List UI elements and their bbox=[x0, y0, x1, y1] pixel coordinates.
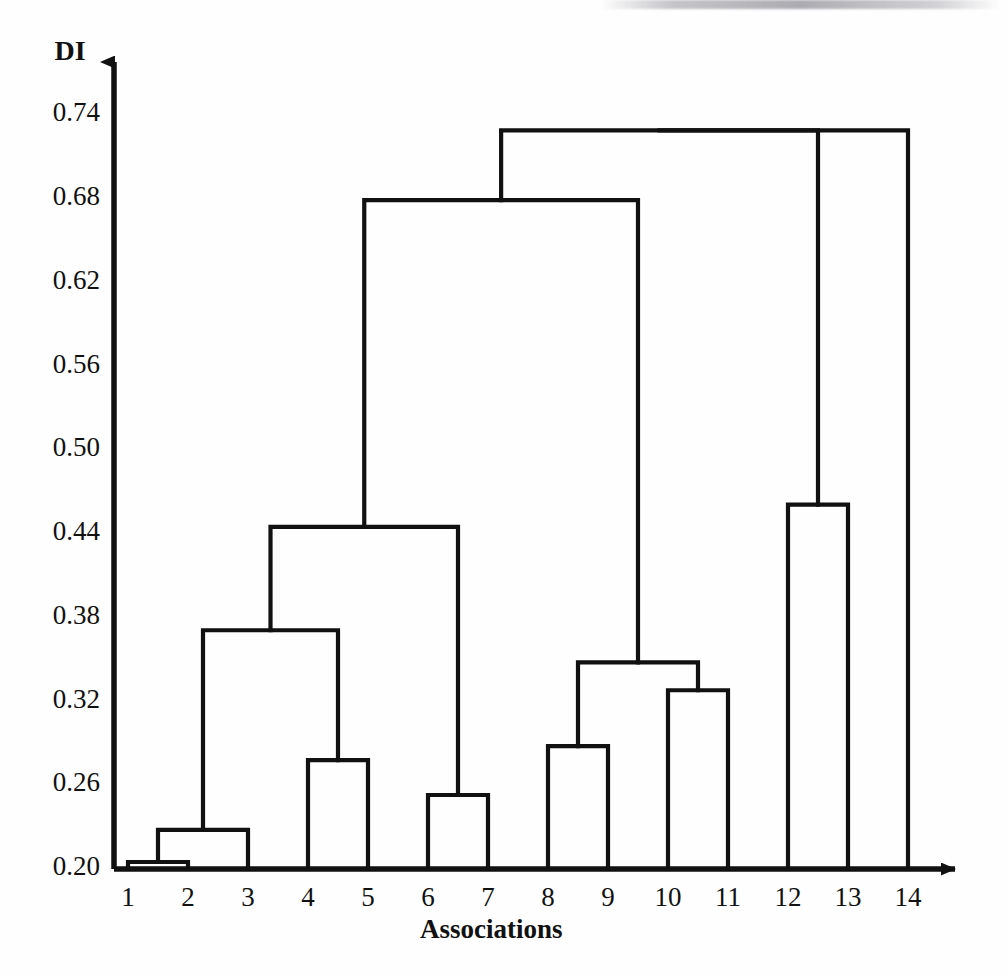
y-tick-label: 0.20 bbox=[53, 851, 100, 881]
x-axis-title: Associations bbox=[420, 914, 563, 944]
leaf-label-14: 14 bbox=[895, 882, 923, 912]
leaf-label-2: 2 bbox=[181, 882, 195, 912]
dendrogram-links bbox=[128, 130, 908, 869]
merge-link-n5 bbox=[428, 795, 488, 869]
y-axis-title: DI bbox=[54, 35, 85, 66]
leaf-label-10: 10 bbox=[655, 882, 682, 912]
leaf-label-6: 6 bbox=[421, 882, 435, 912]
leaf-label-4: 4 bbox=[301, 882, 315, 912]
leaf-label-8: 8 bbox=[541, 882, 555, 912]
y-tick-label: 0.56 bbox=[53, 349, 100, 379]
merge-link-n12 bbox=[501, 130, 818, 504]
leaf-label-9: 9 bbox=[601, 882, 615, 912]
leaf-label-1: 1 bbox=[121, 882, 135, 912]
merge-link-n4 bbox=[203, 630, 338, 830]
leaf-label-12: 12 bbox=[775, 882, 802, 912]
y-tick-label: 0.44 bbox=[53, 516, 101, 546]
y-tick-label: 0.62 bbox=[53, 265, 100, 295]
leaf-label-13: 13 bbox=[835, 882, 862, 912]
merge-link-n6 bbox=[271, 527, 459, 795]
y-tick-label: 0.74 bbox=[53, 97, 101, 127]
merge-link-n7 bbox=[548, 746, 608, 869]
merge-link-n9 bbox=[578, 662, 698, 746]
dendrogram-figure: 0.200.260.320.380.440.500.560.620.680.74… bbox=[0, 0, 1008, 976]
merge-link-n3 bbox=[308, 760, 368, 869]
y-tick-label: 0.68 bbox=[53, 181, 100, 211]
merge-link-n13 bbox=[660, 130, 908, 869]
leaf-label-11: 11 bbox=[715, 882, 741, 912]
leaf-label-5: 5 bbox=[361, 882, 375, 912]
merge-link-n8 bbox=[668, 690, 728, 869]
merge-link-n11 bbox=[788, 505, 848, 869]
x-tick-labels: 1234567891011121314 bbox=[121, 882, 922, 912]
y-tick-label: 0.50 bbox=[53, 432, 100, 462]
leaf-label-7: 7 bbox=[481, 882, 495, 912]
leaf-label-3: 3 bbox=[241, 882, 255, 912]
dendrogram-canvas: 0.200.260.320.380.440.500.560.620.680.74… bbox=[0, 0, 1008, 976]
y-tick-label: 0.38 bbox=[53, 600, 100, 630]
y-tick-label: 0.32 bbox=[53, 684, 100, 714]
y-tick-labels: 0.200.260.320.380.440.500.560.620.680.74 bbox=[53, 97, 101, 881]
y-tick-label: 0.26 bbox=[53, 767, 100, 797]
merge-link-n10 bbox=[364, 200, 638, 662]
